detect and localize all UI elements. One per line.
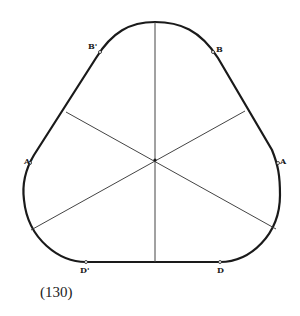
- point-marker-b: [212, 51, 215, 54]
- figure-caption: (130): [40, 284, 73, 301]
- point-marker-d: [219, 261, 222, 264]
- label-d: D: [217, 265, 224, 275]
- point-marker-b-prime: [99, 51, 102, 54]
- rounded-triangle-diagram: B' B A' A D' D: [0, 0, 300, 316]
- label-b: B: [216, 44, 223, 54]
- diagonal-chord-2: [31, 111, 245, 230]
- label-a-prime: A': [23, 156, 33, 166]
- label-a: A: [279, 156, 287, 166]
- center-point: [153, 158, 156, 161]
- diagonal-chord-1: [66, 112, 276, 229]
- label-b-prime: B': [88, 41, 97, 51]
- point-marker-d-prime: [85, 261, 88, 264]
- label-d-prime: D': [80, 265, 89, 275]
- curved-triangle-outline: [23, 22, 280, 262]
